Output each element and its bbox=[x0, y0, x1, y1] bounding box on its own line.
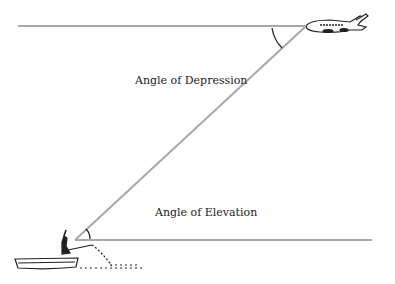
depression-angle-arc bbox=[272, 28, 282, 48]
elevation-angle-arc bbox=[86, 229, 90, 239]
diagram-canvas bbox=[0, 0, 395, 284]
angle-of-elevation-label: Angle of Elevation bbox=[155, 206, 257, 219]
angle-of-depression-label: Angle of Depression bbox=[135, 74, 247, 87]
airplane-icon bbox=[306, 14, 368, 33]
